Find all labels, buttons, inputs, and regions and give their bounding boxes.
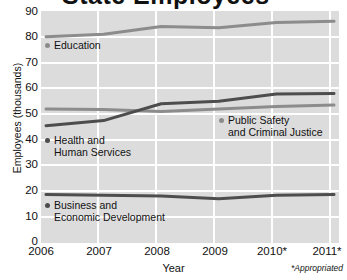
series-label-health-line2: Human Services: [54, 147, 131, 159]
x-tick-2010: 2010*: [249, 245, 295, 257]
series-label-business-line2: Economic Development: [54, 212, 165, 224]
line-chart: State Employees Employees (thousands) 90…: [0, 0, 347, 280]
y-axis-ticks: 90 80 70 60 50 40 30 20 10 0: [8, 0, 38, 280]
plot-area: Education Public Safety and Criminal Jus…: [41, 11, 339, 243]
x-tick-2008: 2008: [134, 245, 180, 257]
x-tick-2009: 2009: [192, 245, 238, 257]
y-tick-50: 50: [16, 108, 38, 120]
series-label-business-line1: Business and: [54, 199, 117, 211]
series-label-public-safety-line1: Public Safety: [228, 114, 289, 126]
y-tick-60: 60: [16, 82, 38, 94]
series-marker-business: [45, 203, 50, 208]
series-label-education-text: Education: [54, 39, 101, 51]
series-marker-public-safety: [219, 118, 224, 123]
y-tick-70: 70: [16, 57, 38, 69]
y-tick-40: 40: [16, 134, 38, 146]
series-label-business: Business and Economic Development: [45, 200, 165, 223]
series-line-public-safety: [46, 105, 334, 111]
x-tick-2007: 2007: [76, 245, 122, 257]
y-tick-90: 90: [16, 6, 38, 18]
chart-footnote: *Appropriated: [291, 263, 343, 273]
series-marker-education: [45, 43, 50, 48]
series-marker-health: [45, 138, 50, 143]
y-tick-10: 10: [16, 211, 38, 223]
series-label-health-line1: Health and: [54, 134, 105, 146]
series-label-public-safety: Public Safety and Criminal Justice: [219, 115, 323, 138]
series-label-education: Education: [45, 40, 101, 52]
y-tick-20: 20: [16, 185, 38, 197]
page-title: State Employees: [62, 0, 270, 9]
y-tick-30: 30: [16, 159, 38, 171]
chart-title-clipped: State Employees: [0, 0, 347, 9]
y-tick-80: 80: [16, 31, 38, 43]
series-line-education: [46, 21, 334, 37]
series-label-health: Health and Human Services: [45, 135, 131, 158]
x-tick-2011: 2011*: [304, 245, 347, 257]
series-label-public-safety-line2: and Criminal Justice: [228, 127, 323, 139]
x-tick-2006: 2006: [18, 245, 64, 257]
